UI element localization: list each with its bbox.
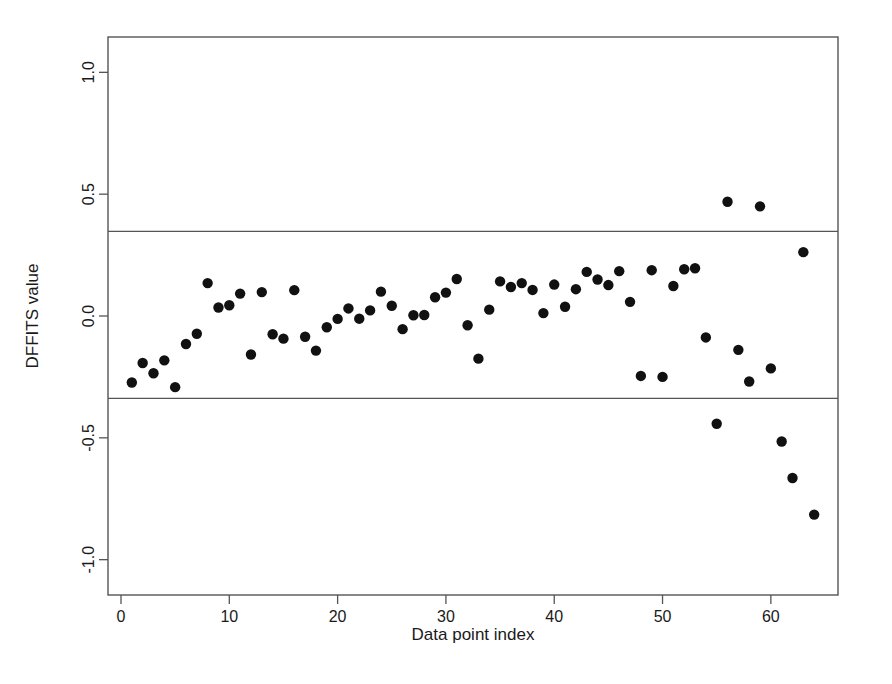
data-point <box>549 279 559 289</box>
data-point <box>679 264 689 274</box>
figure-background <box>0 0 892 684</box>
dffits-scatter-figure: 0102030405060 -1.0-0.50.00.51.0 Data poi… <box>0 0 892 684</box>
data-point <box>246 349 256 359</box>
data-point <box>257 287 267 297</box>
data-point <box>224 300 234 310</box>
x-tick-label: 20 <box>329 608 347 625</box>
data-point <box>668 281 678 291</box>
data-point <box>538 308 548 318</box>
data-point <box>343 303 353 313</box>
data-point <box>127 377 137 387</box>
data-point <box>170 382 180 392</box>
data-point <box>636 371 646 381</box>
data-point <box>647 265 657 275</box>
data-point <box>798 247 808 257</box>
data-point <box>560 302 570 312</box>
data-point <box>311 345 321 355</box>
data-point <box>517 278 527 288</box>
data-point <box>473 353 483 363</box>
data-point <box>603 280 613 290</box>
data-point <box>419 310 429 320</box>
data-point <box>755 201 765 211</box>
x-tick-label: 50 <box>654 608 672 625</box>
data-point <box>776 436 786 446</box>
data-point <box>278 333 288 343</box>
data-point <box>733 345 743 355</box>
data-point <box>701 332 711 342</box>
data-point <box>441 287 451 297</box>
data-point <box>354 313 364 323</box>
data-point <box>213 302 223 312</box>
data-point <box>766 363 776 373</box>
data-point <box>365 305 375 315</box>
y-tick-label: 0.5 <box>80 183 97 205</box>
y-tick-label: -1.0 <box>80 546 97 574</box>
x-tick-label: 40 <box>545 608 563 625</box>
data-point <box>300 332 310 342</box>
data-point <box>159 355 169 365</box>
data-point <box>267 329 277 339</box>
data-point <box>430 292 440 302</box>
x-tick-label: 10 <box>220 608 238 625</box>
y-tick-label: -0.5 <box>80 424 97 452</box>
data-point <box>657 372 667 382</box>
x-tick-label: 60 <box>762 608 780 625</box>
plot-canvas: 0102030405060 -1.0-0.50.00.51.0 Data poi… <box>0 0 892 684</box>
data-point <box>787 473 797 483</box>
data-point <box>484 304 494 314</box>
data-point <box>387 301 397 311</box>
data-point <box>235 288 245 298</box>
y-axis-title: DFFITS value <box>23 264 42 369</box>
data-point <box>322 322 332 332</box>
data-point <box>495 276 505 286</box>
x-tick-label: 0 <box>117 608 126 625</box>
x-tick-label: 30 <box>437 608 455 625</box>
y-tick-label: 0.0 <box>80 305 97 327</box>
y-tick-label: 1.0 <box>80 61 97 83</box>
data-point <box>527 285 537 295</box>
data-point <box>571 284 581 294</box>
data-point <box>181 339 191 349</box>
data-point <box>148 368 158 378</box>
x-axis-title: Data point index <box>412 625 535 644</box>
data-point <box>376 286 386 296</box>
data-point <box>722 197 732 207</box>
data-point <box>592 274 602 284</box>
data-point <box>582 267 592 277</box>
data-point <box>289 285 299 295</box>
data-point <box>690 263 700 273</box>
data-point <box>397 324 407 334</box>
data-point <box>711 419 721 429</box>
data-point <box>744 376 754 386</box>
data-point <box>462 320 472 330</box>
data-point <box>506 282 516 292</box>
data-point <box>332 314 342 324</box>
data-point <box>452 274 462 284</box>
data-point <box>809 509 819 519</box>
data-point <box>192 329 202 339</box>
data-point <box>614 266 624 276</box>
data-point <box>137 358 147 368</box>
data-point <box>202 278 212 288</box>
data-point <box>625 297 635 307</box>
data-point <box>408 310 418 320</box>
